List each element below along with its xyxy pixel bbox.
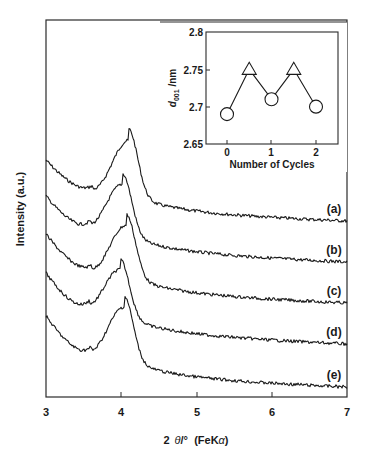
series-label-c: (c) (327, 284, 342, 298)
inset-x-tick-2: 2 (313, 147, 319, 158)
inset-chart: 2.8 2.75 2.7 2.65 0 1 2 Number of Cycles… (160, 22, 347, 172)
xrd-chart: 3 4 5 6 7 2θ/° (FeKα) Intensity (a.u.) (… (0, 0, 367, 463)
x-axis-title: 2θ/° (FeKα) (163, 434, 228, 446)
inset-x-axis-title: Number of Cycles (229, 159, 314, 170)
series-label-b: (b) (326, 243, 341, 257)
trace-c (46, 214, 347, 304)
x-tick-4: 4 (118, 406, 125, 418)
x-axis-tick-labels: 3 4 5 6 7 (43, 406, 350, 418)
inset-circle-marker (265, 93, 278, 106)
inset-y-tick-2.7: 2.7 (189, 102, 203, 113)
x-axis-ticks (121, 392, 272, 397)
x-tick-5: 5 (194, 406, 200, 418)
x-tick-3: 3 (43, 406, 49, 418)
inset-x-tick-1: 1 (268, 147, 274, 158)
inset-circle-marker (310, 100, 323, 113)
y-axis-title: Intensity (a.u.) (14, 171, 26, 246)
series-label-e: (e) (327, 368, 342, 382)
inset-x-tick-0: 0 (224, 147, 230, 158)
inset-y-tick-2.75: 2.75 (184, 65, 204, 76)
series-labels: (a) (b) (c) (d) (e) (326, 202, 341, 382)
inset-y-tick-2.8: 2.8 (189, 27, 203, 38)
inset-y-tick-2.65: 2.65 (184, 139, 204, 150)
series-label-a: (a) (327, 202, 342, 216)
inset-circle-marker (221, 108, 234, 121)
series-label-d: (d) (326, 325, 341, 339)
x-tick-6: 6 (269, 406, 275, 418)
x-tick-7: 7 (344, 406, 350, 418)
